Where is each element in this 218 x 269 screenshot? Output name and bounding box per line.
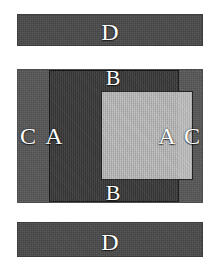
label-d-bottom: D: [17, 230, 203, 254]
label-a-left: A: [42, 124, 66, 148]
diagram-canvas: D C C A A B B D: [0, 0, 218, 269]
label-a-right: A: [155, 124, 179, 148]
label-b-top: B: [95, 67, 131, 89]
label-b-bottom: B: [95, 182, 131, 204]
label-c-right: C: [180, 124, 204, 148]
label-d-top: D: [17, 20, 203, 44]
label-c-left: C: [16, 124, 40, 148]
